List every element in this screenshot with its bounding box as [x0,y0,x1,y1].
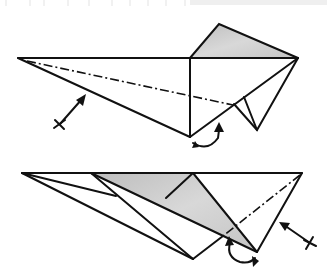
small-flap [234,58,298,130]
top-margin-marks [6,0,327,6]
lower-edge [18,58,190,137]
step-bottom [22,173,316,267]
valley-fold-line [27,61,233,105]
step-top [18,24,298,148]
fold-arrow [54,94,86,129]
small-flap-crease [244,97,257,130]
shaded-flap [190,24,298,58]
origami-diagram [0,0,327,277]
turn-over-arrow [192,122,224,148]
right-edge [257,173,302,252]
fold-arrow [279,222,316,249]
bottom-right-edge [193,236,223,259]
